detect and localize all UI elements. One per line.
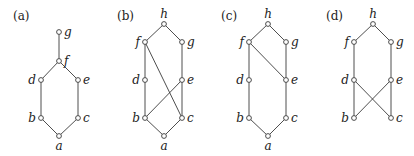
edge-b-a bbox=[249, 118, 268, 136]
node-b bbox=[247, 116, 252, 121]
panel-label: (c) bbox=[221, 9, 237, 23]
node-label-b: b bbox=[236, 111, 244, 125]
edge-c-a bbox=[268, 118, 286, 136]
node-label-f: f bbox=[63, 54, 71, 68]
node-d bbox=[352, 78, 357, 83]
node-f bbox=[247, 40, 252, 45]
node-label-h: h bbox=[264, 7, 272, 21]
node-c bbox=[76, 116, 81, 121]
node-label-c: c bbox=[187, 111, 194, 125]
node-label-c: c bbox=[83, 111, 90, 125]
node-g bbox=[57, 30, 62, 35]
node-e bbox=[76, 78, 81, 83]
node-c bbox=[180, 116, 185, 121]
node-b bbox=[352, 116, 357, 121]
node-label-d: d bbox=[28, 73, 36, 87]
node-label-h: h bbox=[369, 7, 377, 21]
node-label-e: e bbox=[187, 73, 194, 87]
node-a bbox=[57, 134, 62, 139]
diagram-panel-d: (d)hfgdebc bbox=[326, 7, 404, 125]
edge-f-e bbox=[59, 61, 78, 80]
edge-f-d bbox=[41, 61, 59, 80]
node-h bbox=[371, 22, 376, 27]
node-h bbox=[162, 22, 167, 27]
panel-label: (d) bbox=[326, 9, 343, 23]
node-label-h: h bbox=[160, 7, 168, 21]
node-label-c: c bbox=[291, 111, 298, 125]
node-label-f: f bbox=[135, 35, 143, 49]
node-label-f: f bbox=[344, 35, 352, 49]
node-f bbox=[143, 40, 148, 45]
node-h bbox=[266, 22, 271, 27]
node-label-a: a bbox=[160, 139, 167, 153]
node-label-b: b bbox=[28, 111, 36, 125]
diagram-panel-a: (a)gfdebca bbox=[13, 9, 90, 153]
edge-b-a bbox=[145, 118, 164, 136]
node-f bbox=[352, 40, 357, 45]
hasse-diagrams: (a)gfdebca(b)hfgdebca(c)hfgdebca(d)hfgde… bbox=[0, 0, 414, 156]
edge-c-a bbox=[164, 118, 182, 136]
node-e bbox=[180, 78, 185, 83]
edge-h-g bbox=[373, 24, 391, 42]
node-d bbox=[39, 78, 44, 83]
node-label-a: a bbox=[55, 139, 62, 153]
node-c bbox=[389, 116, 394, 121]
edge-f-e bbox=[249, 42, 286, 80]
panel-label: (b) bbox=[117, 9, 134, 23]
node-label-f: f bbox=[239, 35, 247, 49]
node-label-b: b bbox=[341, 111, 349, 125]
node-a bbox=[266, 134, 271, 139]
node-f bbox=[57, 59, 62, 64]
node-label-d: d bbox=[341, 73, 349, 87]
edge-c-a bbox=[59, 118, 78, 136]
node-g bbox=[389, 40, 394, 45]
node-label-e: e bbox=[83, 73, 90, 87]
edge-h-g bbox=[164, 24, 182, 42]
edge-e-b bbox=[145, 80, 182, 118]
node-label-g: g bbox=[64, 25, 72, 39]
edge-h-f bbox=[354, 24, 373, 42]
node-b bbox=[143, 116, 148, 121]
edge-b-a bbox=[41, 118, 59, 136]
node-d bbox=[247, 78, 252, 83]
node-label-e: e bbox=[291, 73, 298, 87]
node-label-e: e bbox=[396, 73, 403, 87]
edge-h-g bbox=[268, 24, 286, 42]
diagram-panel-b: (b)hfgdebca bbox=[117, 7, 195, 153]
node-label-b: b bbox=[132, 111, 140, 125]
node-e bbox=[284, 78, 289, 83]
diagram-panel-c: (c)hfgdebca bbox=[221, 7, 299, 153]
node-g bbox=[180, 40, 185, 45]
node-label-g: g bbox=[187, 35, 195, 49]
node-g bbox=[284, 40, 289, 45]
node-label-g: g bbox=[291, 35, 299, 49]
node-e bbox=[389, 78, 394, 83]
node-label-d: d bbox=[132, 73, 140, 87]
node-c bbox=[284, 116, 289, 121]
edge-f-c bbox=[145, 42, 182, 118]
node-label-g: g bbox=[396, 35, 404, 49]
node-a bbox=[162, 134, 167, 139]
node-label-d: d bbox=[236, 73, 244, 87]
node-label-c: c bbox=[396, 111, 403, 125]
node-b bbox=[39, 116, 44, 121]
node-d bbox=[143, 78, 148, 83]
panel-label: (a) bbox=[13, 9, 30, 23]
edge-h-f bbox=[249, 24, 268, 42]
edge-h-f bbox=[145, 24, 164, 42]
node-label-a: a bbox=[264, 139, 271, 153]
